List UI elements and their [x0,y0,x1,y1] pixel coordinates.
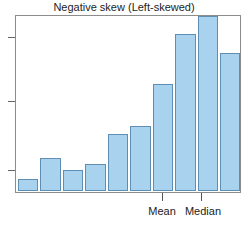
mean-tick [162,193,163,201]
y-axis-tick [8,37,15,38]
histogram-bar [175,34,196,191]
histogram-bar [108,134,128,191]
histogram-bar [153,84,173,191]
median-label: Median [185,205,221,217]
y-axis-tick [8,101,15,102]
histogram-bar [18,179,38,191]
histogram-bar [198,16,218,191]
y-axis-tick [8,170,15,171]
histogram-bar [63,170,83,191]
plot-area [15,15,241,193]
mean-label: Mean [148,205,176,217]
histogram-bar [220,53,240,191]
histogram-bar [85,164,106,191]
chart-title: Negative skew (Left-skewed) [0,0,248,14]
median-tick [201,193,202,201]
histogram-bar [130,126,151,191]
histogram-bar [40,158,61,191]
